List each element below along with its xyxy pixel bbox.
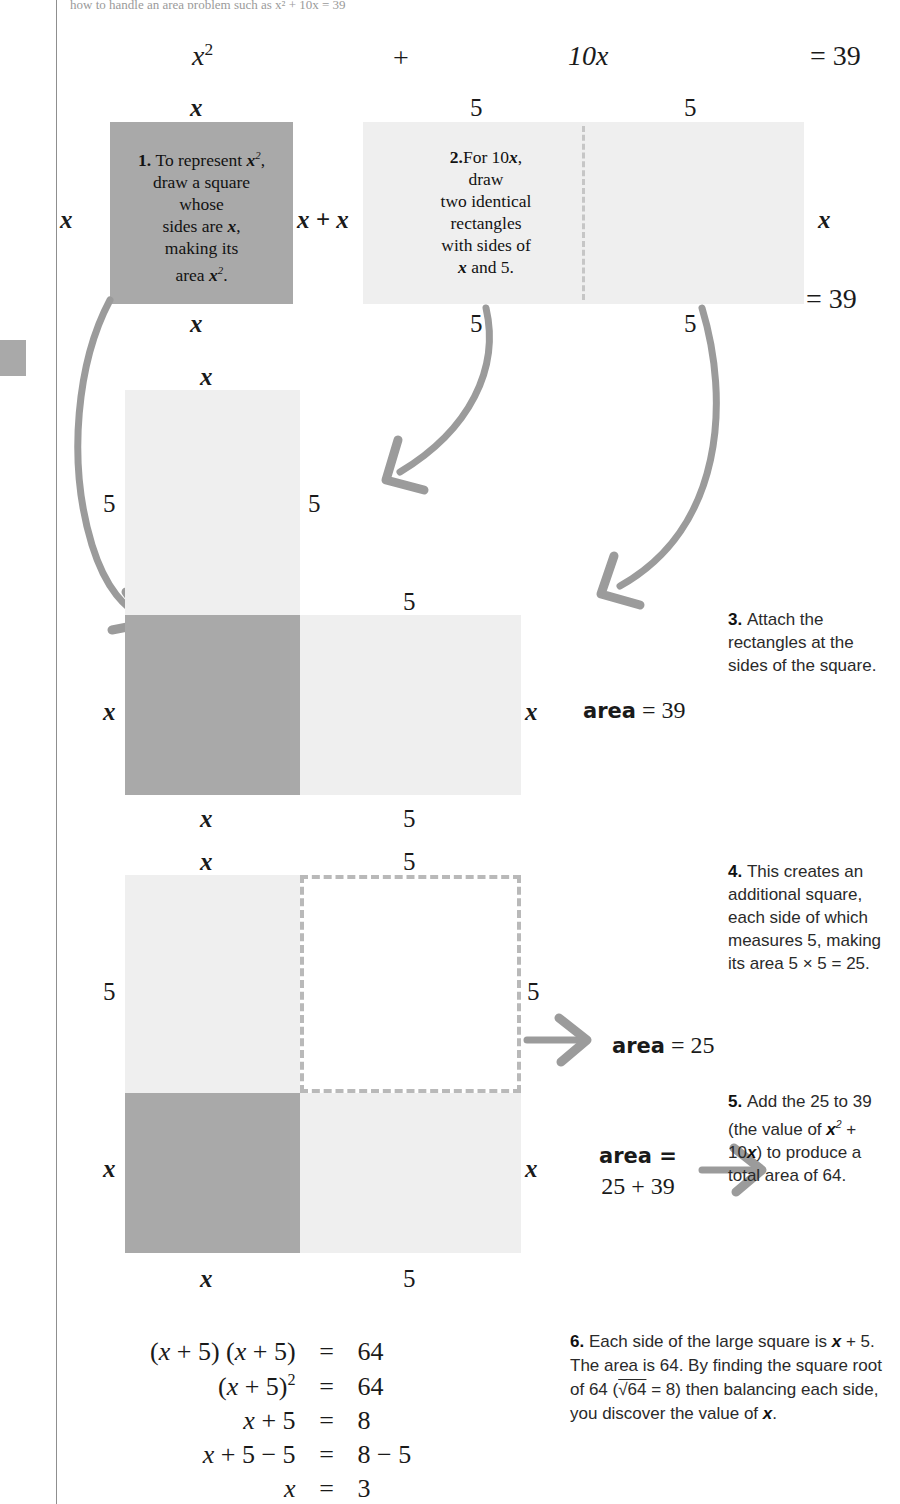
- step2-text: 2.For 10x, drawtwo identicalrectangleswi…: [363, 146, 609, 278]
- step4-bottom-right-rectangle: [300, 1093, 521, 1253]
- step2-divider-dashed: [582, 126, 585, 300]
- step4-far-right-x-label: x: [525, 1155, 538, 1183]
- step4-number: 4.: [728, 862, 742, 881]
- equation-rhs: 8: [344, 1404, 412, 1438]
- equation-lhs: x: [150, 1472, 310, 1504]
- step3-left-x-label: x: [103, 698, 116, 726]
- equation-lhs: x + 5: [150, 1404, 310, 1438]
- step4-x-squared-square: [125, 1093, 300, 1253]
- step5-number: 5.: [728, 1092, 742, 1111]
- step1-text: 1. To represent x2, draw a squarewhosesi…: [110, 144, 293, 286]
- step4-bottom-x-label: x: [200, 1265, 213, 1293]
- step1-x-squared-square: 1. To represent x2, draw a squarewhosesi…: [110, 122, 293, 304]
- equation-rhs: 8 − 5: [344, 1438, 412, 1472]
- equation-lhs: (x + 5)2: [150, 1369, 310, 1404]
- table-row: (x + 5)2 = 64: [150, 1369, 411, 1404]
- header-term-10x: 10x: [568, 40, 608, 72]
- arrow-step4-to-area25: [525, 1010, 605, 1070]
- step4-left-5-label: 5: [103, 978, 116, 1006]
- step3-bottom-5-label: 5: [403, 805, 416, 833]
- header-equals-39: = 39: [810, 40, 861, 72]
- step3-left-5-label: 5: [103, 490, 116, 518]
- equation-rhs: 64: [344, 1369, 412, 1404]
- step4-area-label: area = 25: [612, 1032, 715, 1059]
- header-term-x: x: [192, 40, 204, 71]
- step3-area-value: = 39: [642, 697, 686, 723]
- step4-completing-square-dashed: [300, 875, 521, 1093]
- equation-lhs: (x + 5) (x + 5): [150, 1335, 310, 1369]
- equation-equals: =: [310, 1335, 344, 1369]
- step3-bottom-x-label: x: [200, 805, 213, 833]
- step3-right-top-5-label: 5: [403, 588, 416, 616]
- step3-x-squared-square: [125, 615, 300, 795]
- step4-left-x-label: x: [103, 1155, 116, 1183]
- table-row: x + 5 = 8: [150, 1404, 411, 1438]
- step3-caption: 3. Attach the rectangles at the sides of…: [728, 608, 893, 677]
- step2-number: 2.: [450, 147, 463, 167]
- step5-area-value: 25 + 39: [601, 1173, 675, 1199]
- equation-lhs: x + 5 − 5: [150, 1438, 310, 1472]
- step6-number: 6.: [570, 1332, 584, 1351]
- step4-area-word: area: [612, 1034, 665, 1058]
- step5-caption: 5. Add the 25 to 39 (the value of x2 + 1…: [728, 1090, 893, 1187]
- step3-far-right-x-label: x: [525, 698, 538, 726]
- cut-off-header-text: how to handle an area problem such as x²…: [70, 0, 710, 9]
- equation-equals: =: [310, 1369, 344, 1404]
- step3-top-x-label: x: [200, 363, 213, 391]
- step3-right-rectangle: [300, 615, 521, 795]
- step1-number: 1.: [138, 150, 151, 170]
- step4-top-left-rectangle: [125, 875, 300, 1093]
- equation-equals: =: [310, 1472, 344, 1504]
- header-plus-sign: +: [393, 42, 409, 74]
- equation-rhs: 64: [344, 1335, 412, 1369]
- equation-equals: =: [310, 1404, 344, 1438]
- table-row: (x + 5) (x + 5) = 64: [150, 1335, 411, 1369]
- step3-area-word: area: [583, 699, 636, 723]
- table-row: x = 3: [150, 1472, 411, 1504]
- step4-top-x-label: x: [200, 848, 213, 876]
- arrow-step2-right-to-step3: [620, 308, 716, 586]
- equation-rhs: 3: [344, 1472, 412, 1504]
- equations-block: (x + 5) (x + 5) = 64 (x + 5)2 = 64 x + 5…: [150, 1335, 530, 1504]
- step2-right-label: x: [818, 206, 831, 234]
- page-margin-rule: [56, 0, 57, 1504]
- step2-two-rectangles: 2.For 10x, drawtwo identicalrectangleswi…: [363, 122, 804, 304]
- table-row: x + 5 − 5 = 8 − 5: [150, 1438, 411, 1472]
- step2-top-label-right: 5: [684, 94, 697, 122]
- equation-equals: =: [310, 1438, 344, 1472]
- step4-caption-text: This creates an additional square, each …: [728, 862, 881, 973]
- header-term-exponent: 2: [204, 40, 213, 59]
- step3-number: 3.: [728, 610, 742, 629]
- step3-top-rectangle: [125, 390, 300, 615]
- step4-area-value: = 25: [671, 1032, 715, 1058]
- step1-left-label: x: [60, 206, 73, 234]
- step1-top-label: x: [190, 94, 203, 122]
- step3-caption-text: Attach the rectangles at the sides of th…: [728, 610, 876, 675]
- step3-right-5-label: 5: [308, 490, 321, 518]
- step3-area-label: area = 39: [583, 697, 686, 724]
- step4-caption: 4. This creates an additional square, ea…: [728, 860, 893, 975]
- equations-table: (x + 5) (x + 5) = 64 (x + 5)2 = 64 x + 5…: [150, 1335, 411, 1504]
- step2-top-label-left: 5: [470, 94, 483, 122]
- step6-caption: 6. Each side of the large square is x + …: [570, 1330, 890, 1426]
- between-boxes-x-plus-x: x + x: [297, 206, 349, 234]
- step4-bottom-5-label: 5: [403, 1265, 416, 1293]
- step4-top-5-label: 5: [403, 848, 416, 876]
- header-term-x-squared: x2: [192, 40, 213, 72]
- step5-area-label: area = 25 + 39: [578, 1140, 698, 1201]
- step5-area-word: area =: [599, 1144, 677, 1168]
- step4-right-5-label: 5: [527, 978, 540, 1006]
- arrow-step2-left-to-step3: [400, 308, 489, 472]
